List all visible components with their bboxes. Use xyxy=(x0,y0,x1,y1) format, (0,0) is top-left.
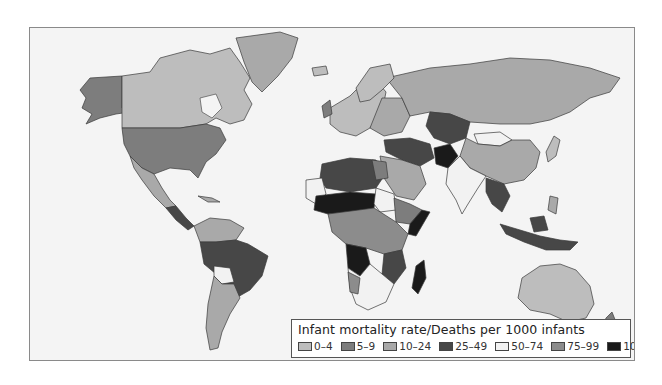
legend-swatch xyxy=(298,342,312,351)
region-madagascar xyxy=(412,260,426,294)
legend-item-50-74: 50–74 xyxy=(495,340,543,352)
region-borneo xyxy=(530,216,548,232)
legend-item-5-9: 5–9 xyxy=(341,340,376,352)
legend-swatch xyxy=(495,342,509,351)
region-central-america xyxy=(166,206,194,230)
legend-item-100-plus: 100+ xyxy=(607,340,635,352)
legend-label: 5–9 xyxy=(357,340,376,352)
legend-swatch xyxy=(439,342,453,351)
region-north-south-america xyxy=(194,218,244,242)
region-iceland xyxy=(312,66,328,76)
region-caribbean xyxy=(198,196,220,202)
legend-label: 50–74 xyxy=(511,340,543,352)
legend-label: 10–24 xyxy=(399,340,431,352)
region-russia xyxy=(386,58,620,124)
region-canada xyxy=(122,48,252,128)
legend-item-75-99: 75–99 xyxy=(551,340,599,352)
region-australia xyxy=(518,264,594,322)
legend-swatch xyxy=(551,342,565,351)
legend-swatch xyxy=(383,342,397,351)
legend-label: 75–99 xyxy=(567,340,599,352)
legend-item-25-49: 25–49 xyxy=(439,340,487,352)
legend-label: 0–4 xyxy=(314,340,333,352)
legend-item-10-24: 10–24 xyxy=(383,340,431,352)
world-map xyxy=(30,28,635,361)
map-frame: Infant mortality rate/Deaths per 1000 in… xyxy=(29,27,635,361)
legend-swatch xyxy=(341,342,355,351)
legend-swatch xyxy=(607,342,621,351)
region-southern-cone xyxy=(206,276,240,350)
region-philippines xyxy=(548,196,558,214)
legend-items: 0–4 5–9 10–24 25–49 50–74 75–99 xyxy=(298,340,624,352)
legend-label: 100+ xyxy=(623,340,635,352)
region-japan xyxy=(546,136,560,162)
map-legend: Infant mortality rate/Deaths per 1000 in… xyxy=(291,319,631,358)
legend-item-0-4: 0–4 xyxy=(298,340,333,352)
legend-label: 25–49 xyxy=(455,340,487,352)
legend-title: Infant mortality rate/Deaths per 1000 in… xyxy=(298,322,624,338)
